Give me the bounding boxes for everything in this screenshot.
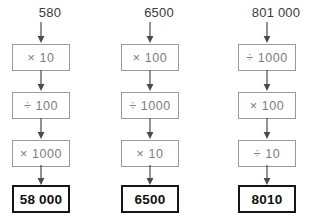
flow-arrow-icon [0,70,100,92]
function-chain: 580 × 10 ÷ 100 × 1000 [0,0,100,222]
operation-box: × 100 [121,44,179,71]
flow-arrow-icon [226,165,314,187]
result-value: 6500 [135,192,166,207]
operation-box: × 100 [238,92,296,119]
operation-label: × 100 [250,99,285,113]
chain-start-value: 580 [0,5,100,21]
operation-label: × 1000 [20,147,62,161]
operation-label: × 10 [27,51,54,65]
function-chain: 801 000 ÷ 1000 × 100 ÷ 10 [226,0,314,222]
operation-label: × 10 [136,147,163,161]
operation-box: ÷ 10 [238,140,296,167]
result-box: 6500 [121,185,179,213]
operation-box: ÷ 1000 [238,44,296,71]
flow-arrow-icon [0,22,100,44]
flow-arrow-icon [226,22,314,44]
result-box: 58 000 [12,185,70,213]
flow-arrow-icon [109,118,209,140]
operation-box: × 10 [12,44,70,71]
flow-arrow-icon [0,118,100,140]
flow-arrow-icon [0,165,100,187]
flow-arrow-icon [226,70,314,92]
operation-box: ÷ 100 [12,92,70,119]
operation-box: ÷ 1000 [121,92,179,119]
chain-start-value: 801 000 [226,5,314,21]
result-box: 8010 [238,185,296,213]
operation-label: ÷ 1000 [246,51,288,65]
operation-label: ÷ 10 [254,147,281,161]
operation-label: ÷ 100 [24,99,58,113]
operation-box: × 1000 [12,140,70,167]
chain-start-value: 6500 [109,5,209,21]
operation-label: ÷ 1000 [129,99,171,113]
flow-arrow-icon [109,22,209,44]
operation-label: × 100 [133,51,168,65]
operation-box: × 10 [121,140,179,167]
flow-arrow-icon [109,70,209,92]
flow-arrow-icon [226,118,314,140]
function-machine-diagram: 580 × 10 ÷ 100 × 1000 [0,0,314,222]
function-chain: 6500 × 100 ÷ 1000 × 10 [109,0,209,222]
result-value: 58 000 [20,192,63,207]
flow-arrow-icon [109,165,209,187]
result-value: 8010 [252,192,283,207]
